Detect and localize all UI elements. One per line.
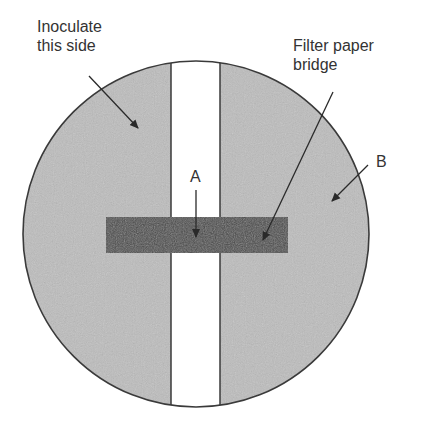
label-a: A xyxy=(190,167,201,186)
filter-paper-bridge xyxy=(106,217,288,253)
petri-dish-diagram: Inoculate this side Filter paper bridge … xyxy=(0,0,424,433)
inoculate-label: Inoculate this side xyxy=(37,17,102,55)
label-b: B xyxy=(376,152,387,171)
filter-paper-bridge-label: Filter paper bridge xyxy=(293,36,374,74)
